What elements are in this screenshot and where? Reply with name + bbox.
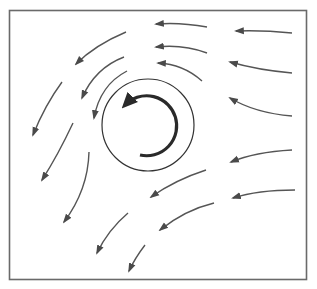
background	[0, 0, 317, 289]
flow-diagram	[0, 0, 317, 289]
